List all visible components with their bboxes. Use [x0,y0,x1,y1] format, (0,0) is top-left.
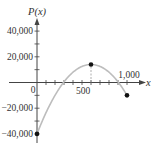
y-axis-label: P(x) [27,6,47,18]
x-axis-arrow-icon [139,80,146,85]
axes [9,18,146,143]
profit-curve [37,65,127,134]
profit-chart: 40,00020,000−20,000−40,00005001,000 P(x)… [0,0,151,145]
y-tick-label: −40,000 [2,129,34,139]
y-tick-label: 40,000 [7,26,33,36]
x-tick-label: 500 [76,86,91,96]
y-axis-arrow-icon [35,18,40,25]
data-point [35,132,40,137]
y-tick-label: −20,000 [2,103,34,113]
y-tick-label: 20,000 [7,52,33,62]
data-point [89,62,94,67]
x-axis-label: x [145,77,151,88]
x-tick-label: 0 [31,85,36,95]
marked-points [35,62,130,136]
data-point [125,93,130,98]
x-tick-label: 1,000 [118,70,140,80]
